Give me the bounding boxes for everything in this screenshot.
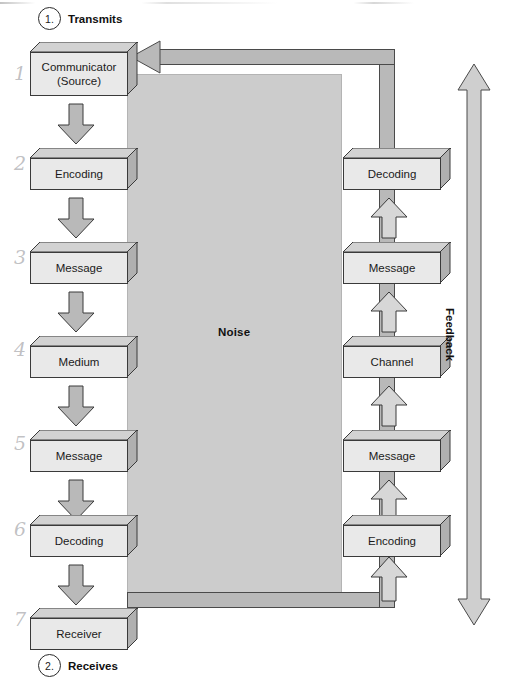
box-medium[interactable]: Medium [30, 336, 138, 378]
margin-mark-1: 1 [14, 62, 26, 84]
box-side-face [127, 430, 138, 472]
return-path-top [158, 49, 395, 65]
box-decoding-left[interactable]: Decoding [30, 515, 138, 557]
box-message-right-2[interactable]: Message [343, 430, 451, 472]
box-side-face [127, 242, 138, 284]
box-label: Message [30, 252, 128, 284]
margin-mark-7: 7 [14, 608, 26, 630]
box-channel[interactable]: Channel [343, 336, 451, 378]
margin-mark-2: 2 [14, 152, 26, 174]
box-label: Medium [30, 346, 128, 378]
callout-number-circle: 1. [38, 7, 61, 30]
callout-label: Transmits [68, 13, 122, 25]
flow-arrow-up-into-encoding [369, 556, 409, 602]
box-label: Receiver [30, 618, 128, 650]
box-encoding-left[interactable]: Encoding [30, 148, 138, 190]
feedback-arrow [456, 62, 492, 631]
box-message-left-1[interactable]: Message [30, 242, 138, 284]
box-side-face [127, 608, 138, 650]
margin-mark-3: 3 [14, 246, 26, 268]
flow-arrow-down-1 [56, 103, 96, 145]
flow-arrow-up-2 [369, 291, 409, 333]
box-label: Communicator(Source) [42, 60, 117, 88]
flow-arrow-down-4 [56, 385, 96, 427]
noise-label: Noise [218, 326, 250, 338]
box-label-wrap: Communicator(Source) [30, 52, 128, 96]
callout-number-circle: 2. [38, 654, 61, 677]
box-side-face [127, 148, 138, 190]
box-message-right-1[interactable]: Message [343, 242, 451, 284]
margin-mark-4: 4 [14, 338, 26, 360]
flow-arrow-down-2 [56, 197, 96, 239]
box-label: Message [30, 440, 128, 472]
box-side-face [440, 242, 451, 284]
margin-mark-6: 6 [14, 518, 26, 540]
box-label: Channel [343, 346, 441, 378]
box-label: Encoding [343, 525, 441, 557]
box-label: Message [343, 440, 441, 472]
box-label: Message [343, 252, 441, 284]
box-label: Encoding [30, 158, 128, 190]
flow-arrow-down-3 [56, 291, 96, 333]
box-side-face [440, 515, 451, 557]
box-side-face [127, 515, 138, 557]
callout-receives: 2. Receives [38, 654, 118, 677]
box-side-face [127, 336, 138, 378]
box-label: Decoding [30, 525, 128, 557]
box-decoding-right[interactable]: Decoding [343, 148, 451, 190]
scan-artifact [0, 2, 505, 4]
flow-arrow-down-6 [56, 564, 96, 606]
callout-label: Receives [68, 660, 118, 672]
margin-mark-5: 5 [14, 432, 26, 454]
box-label: Decoding [343, 158, 441, 190]
callout-transmits: 1. Transmits [38, 7, 122, 30]
box-receiver[interactable]: Receiver [30, 608, 138, 650]
feedback-label: Feedback [444, 308, 456, 361]
box-side-face [440, 148, 451, 190]
return-path-bottom [127, 592, 395, 608]
box-message-left-2[interactable]: Message [30, 430, 138, 472]
diagram-canvas: Noise Communicator(Source) Enco [0, 0, 505, 692]
flow-arrow-up-1 [369, 197, 409, 239]
box-communicator-source[interactable]: Communicator(Source) [30, 42, 138, 96]
flow-arrow-up-3 [369, 385, 409, 427]
box-side-face [127, 42, 138, 96]
box-encoding-right[interactable]: Encoding [343, 515, 451, 557]
box-side-face [440, 430, 451, 472]
